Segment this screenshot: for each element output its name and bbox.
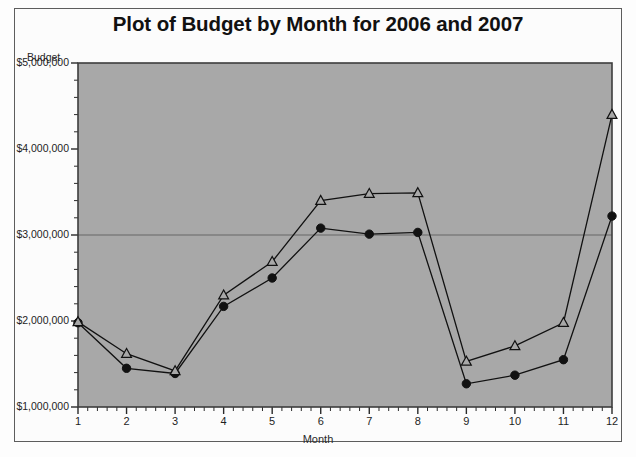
y-tick-label: $2,000,000 [0,314,69,326]
y-tick-label: $3,000,000 [0,228,69,240]
x-tick-label: 10 [500,415,530,427]
x-axis-ticks [78,407,612,414]
y-tick-label: $5,000,000 [0,56,69,68]
x-tick-label: 1 [63,415,93,427]
x-tick-label: 2 [112,415,142,427]
y-axis-ticks [71,63,78,407]
y-tick-label: $4,000,000 [0,142,69,154]
x-axis-label: Month [0,433,636,445]
x-tick-label: 5 [257,415,287,427]
x-tick-label: 4 [209,415,239,427]
x-tick-label: 12 [597,415,627,427]
plot-canvas [0,0,636,457]
x-tick-label: 3 [160,415,190,427]
x-tick-label: 7 [354,415,384,427]
x-tick-label: 6 [306,415,336,427]
y-tick-label: $1,000,000 [0,400,69,412]
x-tick-label: 11 [548,415,578,427]
chart-figure: Plot of Budget by Month for 2006 and 200… [0,0,636,457]
x-tick-label: 9 [451,415,481,427]
x-tick-label: 8 [403,415,433,427]
